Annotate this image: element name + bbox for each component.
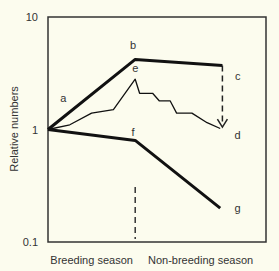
annotation-d: d [235,129,241,141]
series-line-observed [48,79,220,129]
annotation-c: c [235,70,241,82]
y-tick-label: 0.1 [23,236,38,248]
plot-frame [48,17,266,242]
series-line-lower [48,130,220,209]
annotation-b: b [130,39,136,51]
y-axis-title: Relative numbers [8,86,20,172]
annotation-e: e [132,62,138,74]
y-tick-label: 1 [32,124,38,136]
x-category-label: Non-breeding season [148,254,253,266]
y-tick-label: 10 [26,11,38,23]
chart: 1010.1 Breeding seasonNon-breeding seaso… [0,0,279,271]
annotation-a: a [60,92,67,104]
annotation-g: g [235,202,241,214]
annotation-f: f [131,126,135,138]
x-category-label: Breeding season [50,254,133,266]
